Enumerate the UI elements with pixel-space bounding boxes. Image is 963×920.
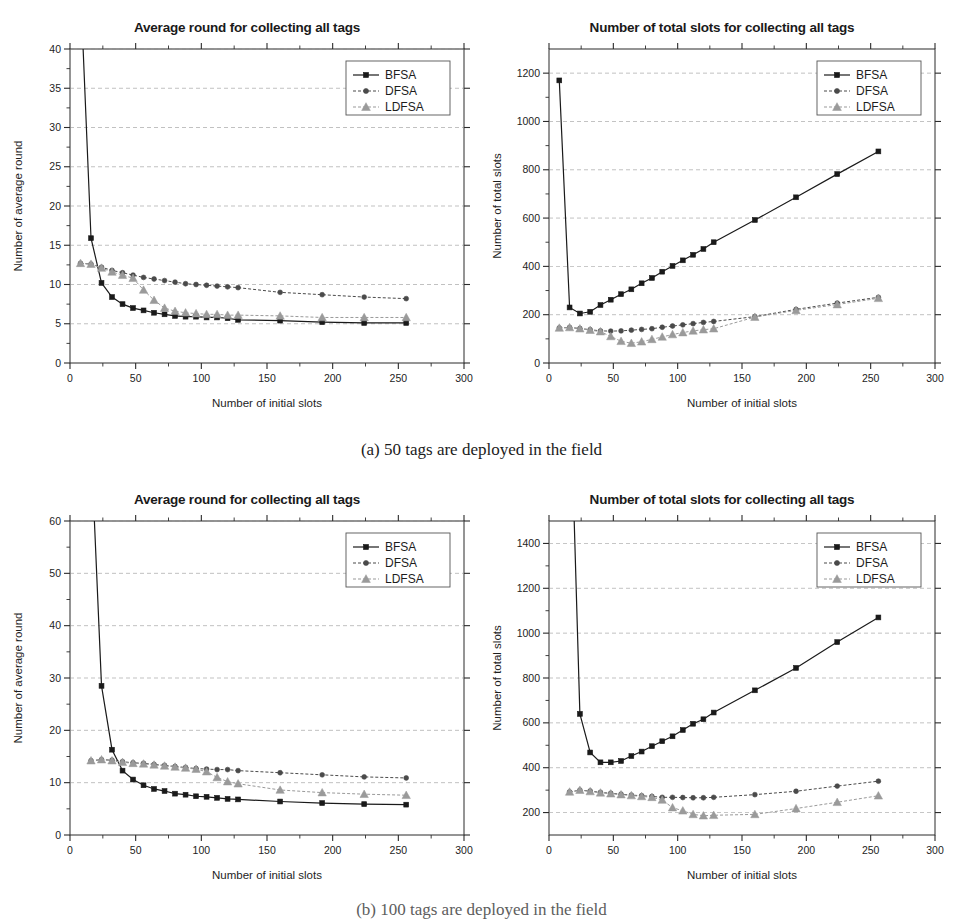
data-point-circle-icon — [215, 284, 220, 289]
y-tick-label: 200 — [522, 806, 540, 818]
data-point-square-icon — [834, 544, 839, 549]
y-axis-label: Number of total slots — [491, 153, 503, 259]
data-point-square-icon — [110, 747, 115, 752]
x-axis-label: Number of initial slots — [212, 869, 322, 881]
data-point-circle-icon — [363, 560, 368, 565]
legend-label-bfsa: BFSA — [856, 540, 887, 554]
data-point-square-icon — [215, 795, 220, 800]
data-point-circle-icon — [619, 328, 624, 333]
data-point-square-icon — [152, 787, 157, 792]
chart-a-right-title: Number of total slots for collecting all… — [487, 20, 957, 35]
y-tick-label: 40 — [49, 619, 61, 631]
data-point-square-icon — [577, 311, 582, 316]
y-tick-label: 50 — [49, 567, 61, 579]
data-point-square-icon — [629, 287, 634, 292]
y-tick-label: 15 — [49, 239, 61, 251]
data-point-circle-icon — [711, 319, 716, 324]
data-point-circle-icon — [215, 767, 220, 772]
data-point-circle-icon — [362, 295, 367, 300]
data-point-circle-icon — [225, 767, 230, 772]
data-point-circle-icon — [236, 285, 241, 290]
legend-label-bfsa: BFSA — [856, 68, 887, 82]
legend-label-bfsa: BFSA — [385, 68, 416, 82]
x-axis-label: Number of initial slots — [687, 397, 797, 409]
data-point-square-icon — [120, 302, 125, 307]
data-point-square-icon — [362, 802, 367, 807]
x-tick-label: 150 — [258, 372, 276, 384]
a-left-svg: 0510152025303540050100150200250300Number… — [8, 35, 486, 415]
y-axis-label: Number of total slots — [491, 625, 503, 731]
y-tick-label: 10 — [49, 278, 61, 290]
data-point-square-icon — [834, 72, 839, 77]
data-point-square-icon — [794, 665, 799, 670]
data-point-circle-icon — [670, 324, 675, 329]
y-tick-label: 0 — [534, 357, 540, 369]
data-point-square-icon — [598, 303, 603, 308]
x-tick-label: 300 — [455, 372, 473, 384]
data-point-square-icon — [691, 252, 696, 257]
data-point-circle-icon — [141, 275, 146, 280]
y-axis-label: Number of average round — [12, 612, 24, 743]
data-point-square-icon — [650, 744, 655, 749]
y-tick-label: 20 — [49, 200, 61, 212]
data-point-circle-icon — [404, 776, 409, 781]
data-point-square-icon — [835, 172, 840, 177]
data-point-square-icon — [99, 281, 104, 286]
chart-b-left: Average round for collecting all tags 01… — [8, 492, 486, 892]
data-point-square-icon — [363, 72, 368, 77]
chart-b-right: Number of total slots for collecting all… — [487, 492, 957, 892]
data-point-circle-icon — [701, 320, 706, 325]
legend-label-dfsa: DFSA — [385, 556, 417, 570]
y-tick-label: 1400 — [517, 537, 541, 549]
x-tick-label: 250 — [390, 844, 408, 856]
x-tick-label: 200 — [798, 844, 816, 856]
data-point-circle-icon — [691, 321, 696, 326]
data-point-square-icon — [701, 717, 706, 722]
x-tick-label: 150 — [258, 844, 276, 856]
data-point-circle-icon — [204, 283, 209, 288]
x-tick-label: 200 — [324, 844, 342, 856]
data-point-circle-icon — [680, 322, 685, 327]
data-point-square-icon — [588, 309, 593, 314]
data-point-circle-icon — [404, 296, 409, 301]
x-tick-label: 200 — [324, 372, 342, 384]
y-tick-label: 400 — [522, 761, 540, 773]
x-tick-label: 50 — [607, 372, 619, 384]
x-tick-label: 0 — [546, 372, 552, 384]
chart-a-left-title: Average round for collecting all tags — [8, 20, 486, 35]
data-point-square-icon — [660, 739, 665, 744]
data-point-square-icon — [320, 801, 325, 806]
data-point-square-icon — [660, 269, 665, 274]
x-tick-label: 150 — [733, 372, 751, 384]
chart-b-right-title: Number of total slots for collecting all… — [487, 492, 957, 507]
data-point-circle-icon — [173, 280, 178, 285]
data-point-square-icon — [173, 791, 178, 796]
data-point-square-icon — [567, 305, 572, 310]
y-tick-label: 60 — [49, 515, 61, 527]
y-tick-label: 25 — [49, 160, 61, 172]
y-tick-label: 5 — [55, 317, 61, 329]
x-tick-label: 100 — [669, 372, 687, 384]
x-tick-label: 150 — [733, 844, 751, 856]
data-point-circle-icon — [194, 282, 199, 287]
chart-b-right-plot: 2004006008001000120014000501001502002503… — [487, 507, 957, 887]
y-tick-label: 35 — [49, 82, 61, 94]
y-tick-label: 30 — [49, 121, 61, 133]
legend-label-ldfsa: LDFSA — [385, 100, 424, 114]
data-point-square-icon — [608, 760, 613, 765]
x-tick-label: 250 — [390, 372, 408, 384]
data-point-circle-icon — [711, 795, 716, 800]
data-point-circle-icon — [225, 284, 230, 289]
data-point-square-icon — [225, 796, 230, 801]
caption-a: (a) 50 tags are deployed in the field — [0, 440, 963, 460]
x-tick-label: 50 — [607, 844, 619, 856]
data-point-circle-icon — [320, 292, 325, 297]
chart-a-left: Average round for collecting all tags 05… — [8, 20, 486, 430]
legend-label-dfsa: DFSA — [856, 84, 888, 98]
data-point-square-icon — [670, 263, 675, 268]
legend-label-bfsa: BFSA — [385, 540, 416, 554]
x-tick-label: 300 — [926, 372, 944, 384]
data-point-square-icon — [680, 728, 685, 733]
data-point-square-icon — [835, 640, 840, 645]
data-point-square-icon — [598, 760, 603, 765]
